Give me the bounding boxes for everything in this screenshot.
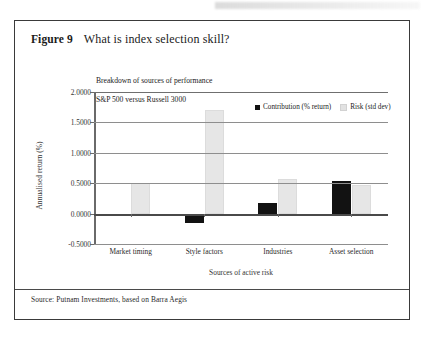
y-axis-tick: [90, 214, 94, 215]
bar-group: [241, 92, 315, 244]
legend-item: Contribution (% return): [255, 103, 331, 111]
y-axis-tick: [90, 153, 94, 154]
y-axis-tick-label: 1.0000: [71, 148, 91, 157]
y-axis-tick: [90, 183, 94, 184]
page-scan-artifact: [215, 2, 420, 9]
x-axis-tick-label: Industries: [263, 247, 292, 256]
y-axis-tick-label: 0.5000: [71, 179, 91, 188]
chart: Annualised return (%) 2.00001.50001.0000…: [15, 21, 411, 321]
legend-item: Risk (std dev): [340, 103, 390, 111]
gridline: [94, 92, 388, 93]
legend-swatch-contribution: [255, 105, 260, 110]
gridline: [94, 214, 388, 216]
bar-risk: [352, 185, 371, 214]
y-axis-tick-label: 0.0000: [71, 209, 91, 218]
y-axis-tick-label: -0.5000: [68, 240, 91, 249]
x-axis-tick-label: Asset selection: [329, 247, 374, 256]
gridline: [94, 244, 388, 245]
source-note: Source: Putnam Investments, based on Bar…: [31, 295, 187, 304]
gridline: [94, 153, 388, 154]
y-axis-tick-label: 2.0000: [71, 88, 91, 97]
bar-risk: [131, 183, 150, 213]
y-axis-tick: [90, 92, 94, 93]
x-axis-tick: [351, 214, 352, 217]
y-axis-title: Annualised return (%): [35, 121, 44, 231]
bar-group: [168, 92, 242, 244]
plot-area: [94, 92, 388, 244]
x-axis-tick-label: Style factors: [186, 247, 223, 256]
bar-group: [94, 92, 168, 244]
legend-label: Contribution (% return): [263, 103, 331, 111]
x-axis-tick: [204, 214, 205, 217]
x-axis-tick: [278, 214, 279, 217]
y-axis-tick-labels: 2.00001.50001.00000.50000.0000-0.5000: [53, 92, 91, 244]
source-divider: [15, 289, 409, 290]
legend-swatch-risk: [340, 104, 347, 111]
bar-risk: [205, 110, 224, 213]
y-axis-tick: [90, 122, 94, 123]
figure-container: Figure 9 What is index selection skill? …: [14, 20, 410, 320]
x-axis-title: Sources of active risk: [94, 268, 388, 277]
bar-groups: [94, 92, 388, 244]
gridline: [94, 183, 388, 184]
legend-label: Risk (std dev): [350, 103, 390, 111]
x-axis-tick-labels: Market timingStyle factorsIndustriesAsse…: [94, 247, 388, 261]
chart-legend: Contribution (% return)Risk (std dev): [255, 103, 391, 111]
bar-contribution: [332, 181, 351, 213]
bar-contribution: [258, 203, 277, 214]
x-axis-tick-label: Market timing: [110, 247, 153, 256]
x-axis-tick: [131, 214, 132, 217]
y-axis-tick-label: 1.5000: [71, 118, 91, 127]
gridline: [94, 122, 388, 123]
bar-group: [315, 92, 389, 244]
y-axis-tick: [90, 244, 94, 245]
